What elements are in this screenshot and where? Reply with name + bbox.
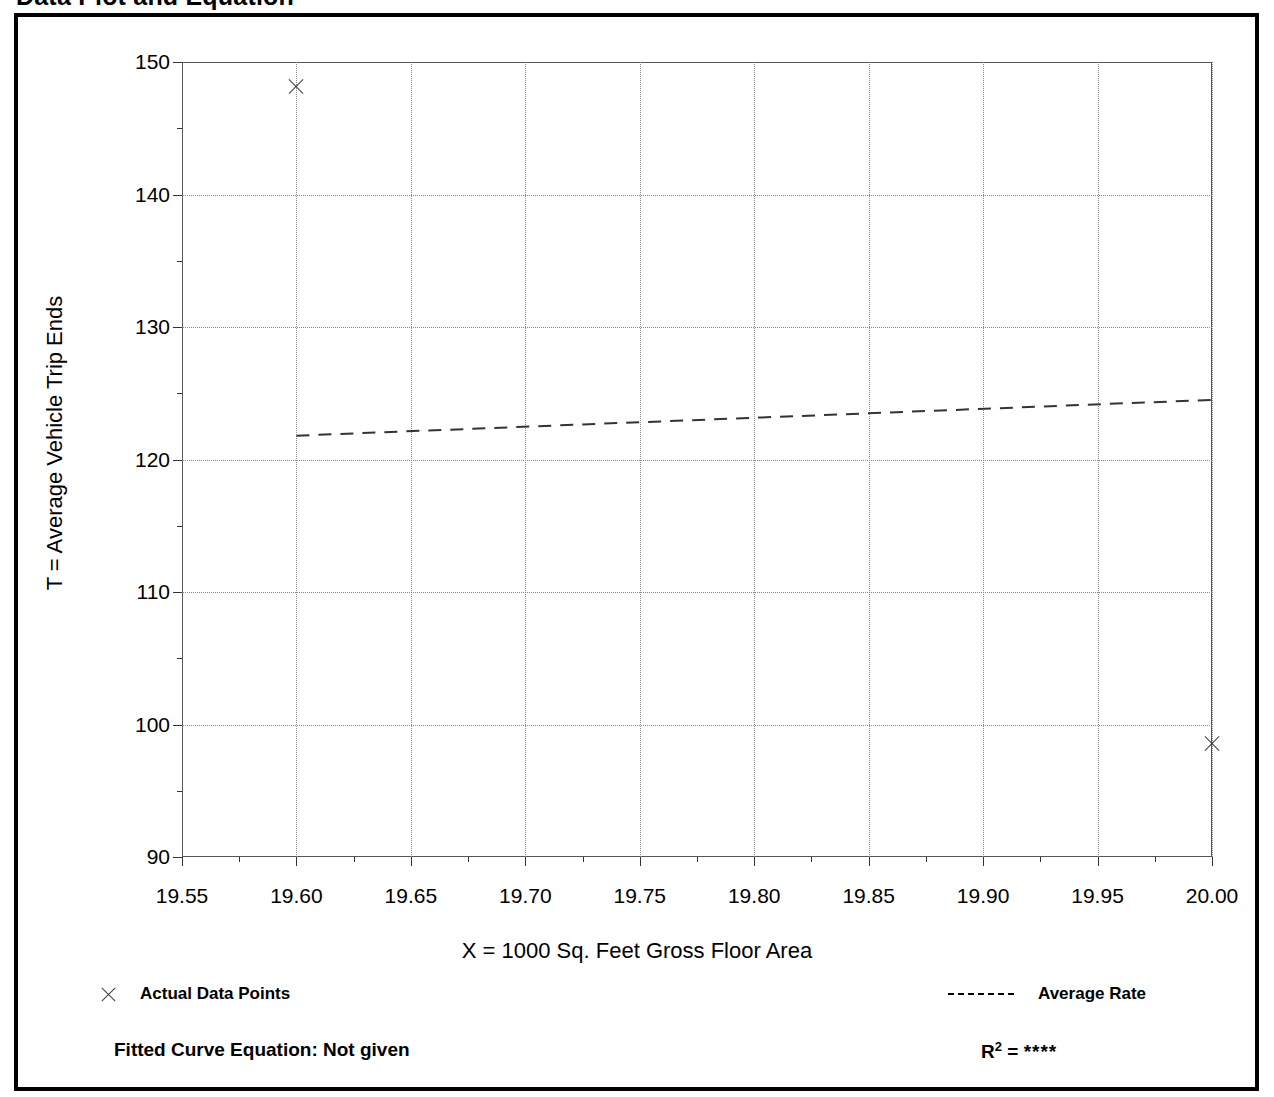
x-axis-tick <box>640 857 641 866</box>
data-point-marker <box>286 77 306 97</box>
r-squared-value: R2 = **** <box>981 1039 1057 1063</box>
x-axis-tick-label: 19.80 <box>694 884 814 908</box>
x-axis-tick <box>525 857 526 866</box>
r2-number: **** <box>1024 1041 1058 1062</box>
x-axis-tick <box>983 857 984 866</box>
x-axis-minor-tick <box>926 857 927 862</box>
x-axis-tick <box>1212 857 1213 866</box>
y-axis-tick-label: 110 <box>90 580 170 604</box>
x-axis-tick-label: 19.90 <box>923 884 1043 908</box>
legend-label-actual-data-points: Actual Data Points <box>140 984 290 1004</box>
x-axis-tick-label: 19.65 <box>351 884 471 908</box>
x-axis-minor-tick <box>697 857 698 862</box>
x-axis-minor-tick <box>239 857 240 862</box>
r2-symbol: R <box>981 1041 995 1062</box>
dashed-line-icon <box>948 993 1014 995</box>
x-axis-title: X = 1000 Sq. Feet Gross Floor Area <box>0 938 1274 964</box>
data-point-marker <box>1202 734 1222 754</box>
y-axis-tick-label: 100 <box>90 713 170 737</box>
page-title: Data Plot and Equation <box>16 0 294 11</box>
y-axis-tick-label: 130 <box>90 315 170 339</box>
x-axis-tick-label: 19.70 <box>465 884 585 908</box>
x-axis-tick <box>182 857 183 866</box>
y-axis-tick <box>173 327 182 328</box>
x-axis-tick-label: 19.95 <box>1038 884 1158 908</box>
y-axis-tick <box>173 725 182 726</box>
r2-exponent: 2 <box>995 1039 1002 1054</box>
x-axis-tick-label: 19.60 <box>236 884 356 908</box>
x-axis-tick <box>1098 857 1099 866</box>
r2-equals: = <box>1002 1041 1024 1062</box>
y-axis-tick-label: 90 <box>90 845 170 869</box>
x-axis-tick <box>411 857 412 866</box>
y-axis-tick-label: 120 <box>90 448 170 472</box>
x-axis-minor-tick <box>583 857 584 862</box>
x-axis-tick <box>754 857 755 866</box>
fitted-curve-equation: Fitted Curve Equation: Not given <box>114 1039 410 1061</box>
y-axis-tick <box>173 857 182 858</box>
x-axis-tick-label: 20.00 <box>1152 884 1272 908</box>
x-axis-tick-label: 19.55 <box>122 884 242 908</box>
plot-area: 15014013012011010090 19.5519.6019.6519.7… <box>182 62 1212 857</box>
x-marker-icon <box>99 985 118 1004</box>
y-axis-tick-label: 150 <box>90 50 170 74</box>
y-axis-tick <box>173 195 182 196</box>
legend-item-average-rate: Average Rate <box>948 984 1146 1004</box>
x-axis-minor-tick <box>1155 857 1156 862</box>
x-axis-tick-label: 19.75 <box>580 884 700 908</box>
legend-item-actual-data-points: Actual Data Points <box>99 984 290 1004</box>
x-axis-minor-tick <box>354 857 355 862</box>
y-axis-tick <box>173 592 182 593</box>
chart-footer: Fitted Curve Equation: Not given R2 = **… <box>0 1039 1274 1073</box>
y-axis-tick <box>173 62 182 63</box>
chart-legend: Actual Data Points Average Rate <box>0 984 1274 1018</box>
y-axis-tick <box>173 460 182 461</box>
x-axis-tick <box>296 857 297 866</box>
y-axis-title: T = Average Vehicle Trip Ends <box>42 143 68 743</box>
x-axis-tick <box>869 857 870 866</box>
x-axis-minor-tick <box>1040 857 1041 862</box>
average-rate-line <box>182 62 1212 857</box>
x-axis-tick-label: 19.85 <box>809 884 929 908</box>
x-axis-minor-tick <box>468 857 469 862</box>
y-axis-tick-label: 140 <box>90 183 170 207</box>
x-axis-minor-tick <box>811 857 812 862</box>
legend-label-average-rate: Average Rate <box>1038 984 1146 1004</box>
